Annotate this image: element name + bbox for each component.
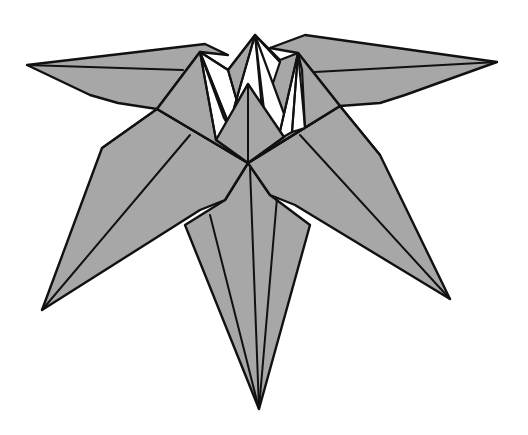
origami-flower-drawing [0,0,528,435]
origami-diagram [0,0,528,435]
